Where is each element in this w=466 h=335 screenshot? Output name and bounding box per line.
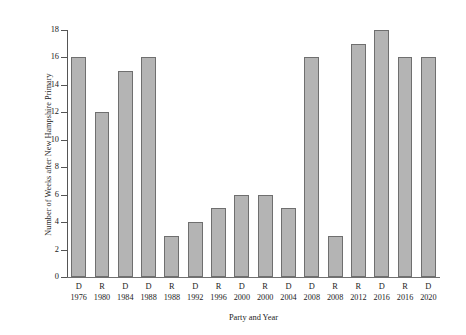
bar	[118, 71, 133, 277]
x-label-party: D	[137, 282, 160, 293]
x-label-year: 1980	[90, 293, 113, 304]
bar-series	[67, 30, 440, 277]
x-label-party: D	[230, 282, 253, 293]
x-axis-tick-label: D2020	[417, 282, 440, 303]
y-axis-tick-label: 0	[55, 271, 59, 282]
x-axis-tick-label: R1988	[160, 282, 183, 303]
x-axis-tick-label: D2008	[300, 282, 323, 303]
bar	[141, 57, 156, 277]
x-label-year: 2004	[277, 293, 300, 304]
y-axis-tick-label: 2	[55, 244, 59, 255]
x-label-year: 2008	[323, 293, 346, 304]
y-axis-tick-label: 6	[55, 189, 59, 200]
x-label-party: R	[207, 282, 230, 293]
x-label-party: D	[300, 282, 323, 293]
bar	[258, 195, 273, 277]
x-label-party: D	[67, 282, 90, 293]
bar	[398, 57, 413, 277]
x-axis-tick-label: R2016	[393, 282, 416, 303]
x-label-party: D	[184, 282, 207, 293]
bar	[281, 208, 296, 277]
x-label-year: 1984	[114, 293, 137, 304]
x-axis-tick-label: D1992	[184, 282, 207, 303]
y-axis-tick-label: 16	[51, 51, 59, 62]
x-axis-tick-label: D1984	[114, 282, 137, 303]
x-label-year: 2016	[370, 293, 393, 304]
y-axis-tick-label: 14	[51, 79, 59, 90]
x-label-year: 1996	[207, 293, 230, 304]
bar	[211, 208, 226, 277]
x-axis-tick-label: D2000	[230, 282, 253, 303]
bar	[95, 112, 110, 277]
x-label-party: R	[90, 282, 113, 293]
bar	[421, 57, 436, 277]
x-axis-tick-label: D1976	[67, 282, 90, 303]
y-axis-tick-label: 4	[55, 216, 59, 227]
y-axis-tick-label: 12	[51, 106, 59, 117]
bar-chart-figure: Number of Weeks after New Hampshire Prim…	[0, 0, 466, 335]
x-axis-tick-label: R2000	[254, 282, 277, 303]
x-axis-title: Party and Year	[67, 313, 440, 322]
bar	[71, 57, 86, 277]
bar	[351, 44, 366, 277]
x-label-party: R	[347, 282, 370, 293]
y-axis-tick-label: 18	[51, 24, 59, 35]
x-label-party: D	[417, 282, 440, 293]
x-axis-line	[67, 277, 440, 278]
y-axis-tick-label: 8	[55, 161, 59, 172]
x-label-year: 1988	[137, 293, 160, 304]
x-axis-tick-label: D1988	[137, 282, 160, 303]
x-axis-tick-label: R1980	[90, 282, 113, 303]
x-label-party: D	[114, 282, 137, 293]
y-axis-title: Number of Weeks after New Hampshire Prim…	[44, 30, 53, 280]
plot-area: 024681012141618 D1976R1980D1984D1988R198…	[67, 30, 440, 277]
x-label-year: 2008	[300, 293, 323, 304]
x-label-party: R	[160, 282, 183, 293]
bar	[234, 195, 249, 277]
x-label-year: 1992	[184, 293, 207, 304]
x-axis-tick-label: D2004	[277, 282, 300, 303]
x-label-year: 2020	[417, 293, 440, 304]
x-label-year: 2000	[254, 293, 277, 304]
x-label-year: 1988	[160, 293, 183, 304]
x-label-year: 2000	[230, 293, 253, 304]
x-axis-tick-label: R2008	[323, 282, 346, 303]
bar	[328, 236, 343, 277]
x-label-year: 2016	[393, 293, 416, 304]
x-label-year: 1976	[67, 293, 90, 304]
x-label-year: 2012	[347, 293, 370, 304]
x-label-party: R	[254, 282, 277, 293]
y-axis-tick	[61, 277, 67, 278]
x-axis-tick-label: D2016	[370, 282, 393, 303]
x-label-party: R	[323, 282, 346, 293]
x-label-party: R	[393, 282, 416, 293]
x-axis-tick-label: R2012	[347, 282, 370, 303]
bar	[164, 236, 179, 277]
bar	[188, 222, 203, 277]
bar	[304, 57, 319, 277]
x-label-party: D	[370, 282, 393, 293]
y-axis-tick-label: 10	[51, 134, 59, 145]
x-axis-tick-label: R1996	[207, 282, 230, 303]
x-label-party: D	[277, 282, 300, 293]
bar	[374, 30, 389, 277]
